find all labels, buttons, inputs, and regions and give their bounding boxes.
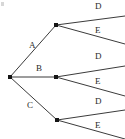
edge-label-a-e: E xyxy=(95,26,101,35)
branch-c-to-e xyxy=(57,120,125,139)
branch-a-to-d xyxy=(56,16,125,25)
edge-label-c: C xyxy=(27,101,33,110)
node-c xyxy=(55,118,59,122)
tree-diagram-canvas xyxy=(0,0,125,139)
node-a xyxy=(54,23,58,27)
edge-label-a: A xyxy=(29,41,36,50)
edge-label-c-e: E xyxy=(95,121,101,130)
edge-label-b-e: E xyxy=(95,77,101,86)
branch-c-to-d xyxy=(57,110,125,120)
edge-label-c-d: D xyxy=(95,97,102,106)
edge-label-b-d: D xyxy=(95,52,102,61)
node-root xyxy=(8,75,12,79)
branch-root-to-a xyxy=(10,25,56,77)
branch-b-to-d xyxy=(56,66,125,77)
tree-diagram: A B C D E D E D E xyxy=(0,0,125,139)
branch-b-to-e xyxy=(56,77,125,96)
branch-a-to-e xyxy=(56,25,125,44)
edge-label-b: B xyxy=(36,64,42,73)
branch-root-to-c xyxy=(10,77,57,120)
edge-label-a-d: D xyxy=(95,2,102,11)
node-b xyxy=(54,75,58,79)
